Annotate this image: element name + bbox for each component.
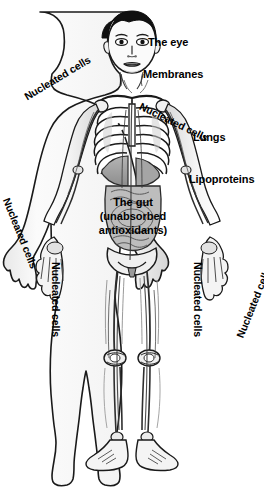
label-the-eye: The eye (148, 36, 188, 49)
label-the-gut: The gut (unabsorbed antioxidants) (88, 196, 178, 237)
gut-line-1: The gut (88, 196, 178, 210)
eye-right (137, 39, 149, 46)
body-diagram (0, 0, 264, 493)
label-nucleated-cells-right-thigh: Nucleated cells (192, 262, 204, 337)
gut-line-2: (unabsorbed (88, 210, 178, 224)
eye-left (116, 39, 128, 46)
knee-left (104, 350, 126, 366)
gut-line-3: antioxidants) (88, 224, 178, 238)
label-lipoproteins: Lipoproteins (189, 173, 254, 186)
label-nucleated-cells-left-thigh: Nucleated cells (50, 262, 62, 337)
label-membranes: Membranes (143, 68, 203, 81)
knee-right (138, 350, 160, 366)
